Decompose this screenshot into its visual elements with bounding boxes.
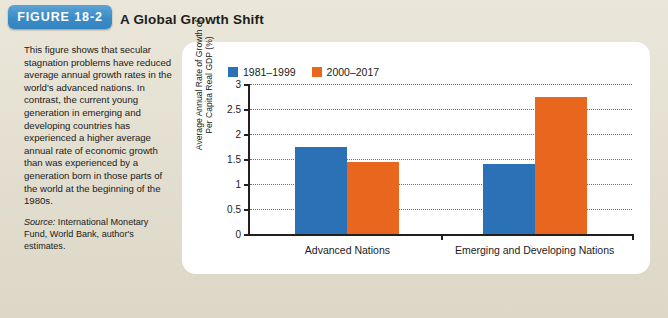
source-label: Source: — [24, 217, 55, 227]
y-axis-tick-mark — [244, 159, 250, 161]
y-axis-tick-label: 2.5 — [227, 104, 241, 115]
y-axis-tick-label: 1.5 — [227, 154, 241, 165]
figure-number-badge: FIGURE 18-2 — [8, 5, 112, 29]
y-axis-tick-mark — [244, 209, 250, 211]
y-axis-tick-mark — [244, 234, 250, 236]
y-axis-tick-label: 3 — [235, 79, 241, 90]
x-axis-tick-mark — [441, 234, 443, 240]
y-axis-tick-label: 0.5 — [227, 204, 241, 215]
bar-1-1 — [295, 147, 347, 235]
figure-caption-text: This figure shows that secular stagnatio… — [24, 44, 174, 208]
y-axis-tick-label: 1 — [235, 179, 241, 190]
bar-2-1 — [483, 164, 535, 234]
y-axis-tick-mark — [244, 84, 250, 86]
y-axis-title-line1: Average Annual Rate of Growth of — [194, 20, 204, 150]
y-axis-title-line2: Per Capita Real GDP (%) — [204, 36, 214, 133]
bar-1-2 — [347, 162, 399, 235]
y-axis-tick-mark — [244, 134, 250, 136]
figure-caption-column: This figure shows that secular stagnatio… — [24, 44, 174, 252]
figure-root: FIGURE 18-2 A Global Growth Shift This f… — [0, 0, 668, 318]
bar-2-2 — [535, 97, 587, 235]
figure-source-note: Source: International Monetary Fund, Wor… — [24, 216, 174, 252]
x-axis-tick-mark — [632, 234, 634, 240]
gridline — [250, 84, 632, 85]
y-axis-title: Average Annual Rate of Growth of Per Cap… — [193, 0, 215, 171]
plot-area: 00.511.522.53Advanced NationsEmerging an… — [248, 84, 632, 236]
y-axis-tick-mark — [244, 184, 250, 186]
chart-plot-wrapper: Average Annual Rate of Growth of Per Cap… — [182, 42, 650, 274]
figure-number-label: FIGURE 18-2 — [17, 10, 103, 24]
x-axis-group-label: Emerging and Developing Nations — [455, 244, 614, 256]
y-axis-tick-label: 2 — [235, 129, 241, 140]
x-axis-group-label: Advanced Nations — [305, 244, 390, 256]
y-axis-tick-mark — [244, 109, 250, 111]
y-axis-tick-label: 0 — [235, 229, 241, 240]
figure-title: A Global Growth Shift — [120, 12, 264, 27]
